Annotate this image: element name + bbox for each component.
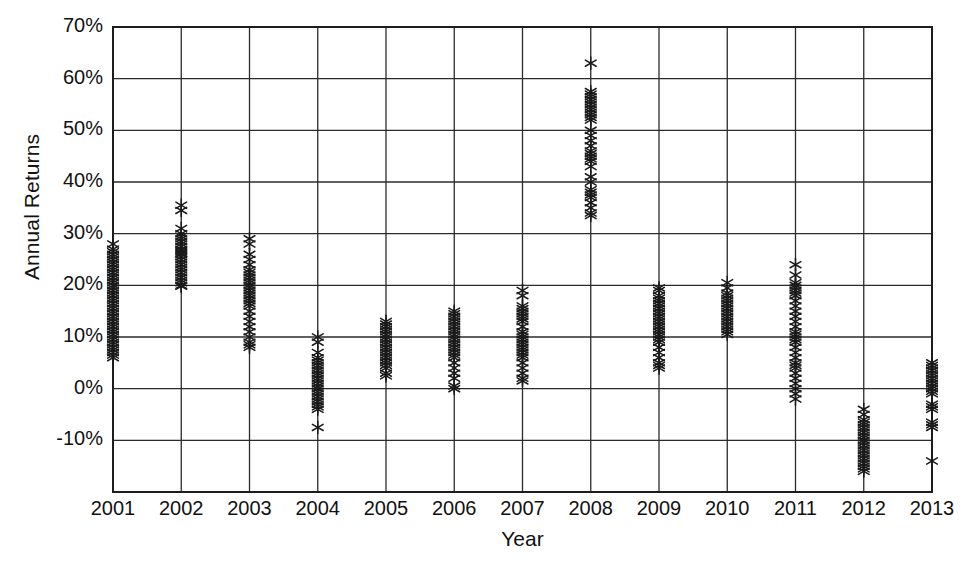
plot-area bbox=[0, 0, 976, 570]
data-point bbox=[790, 393, 801, 405]
scatter-chart: Annual Returns Year 70%60%50%40%30%20%10… bbox=[0, 0, 976, 570]
gridlines bbox=[113, 27, 932, 492]
data-point bbox=[176, 204, 187, 216]
data-point bbox=[927, 455, 938, 467]
data-point bbox=[312, 421, 323, 433]
data-point bbox=[585, 57, 596, 69]
